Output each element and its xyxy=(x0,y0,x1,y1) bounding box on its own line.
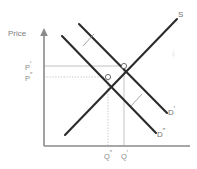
price-tick-p-double-prime: P″ xyxy=(25,72,32,82)
demand-curve-d-double-prime-label-mark: ″ xyxy=(163,127,165,134)
price-axis-arrow-icon xyxy=(40,28,48,36)
demand-curve-d-prime-label: D′ xyxy=(168,106,175,117)
equilibrium-point-1 xyxy=(121,63,126,68)
quantity-tick-q-double-prime: Q″ xyxy=(104,150,112,160)
price-tick-p-prime: P′ xyxy=(25,61,31,71)
price-tick-p-prime-mark: ′ xyxy=(30,60,31,67)
supply-curve-label: S xyxy=(178,11,183,19)
equilibrium-point-2 xyxy=(105,74,110,79)
faint-artifact-mark xyxy=(172,50,175,58)
price-tick-p-double-prime-mark: ″ xyxy=(30,71,32,78)
demand-shift-arrow-upper-icon xyxy=(83,34,94,46)
quantity-tick-q-double-prime-mark: ″ xyxy=(110,149,112,156)
demand-curve-d-double-prime xyxy=(62,36,156,133)
demand-curve-d-double-prime-label: D″ xyxy=(157,128,165,139)
supply-demand-svg xyxy=(0,0,197,169)
quantity-tick-q-prime: Q′ xyxy=(121,150,128,160)
quantity-tick-q-prime-mark: ′ xyxy=(127,149,128,156)
demand-shift-arrow-lower-icon xyxy=(131,94,142,106)
diagram-canvas: Price P′ P″ Q″ Q′ S D′ D″ xyxy=(0,0,197,169)
demand-curve-d-prime-label-mark: ′ xyxy=(174,105,175,112)
price-axis-label: Price xyxy=(8,30,26,38)
